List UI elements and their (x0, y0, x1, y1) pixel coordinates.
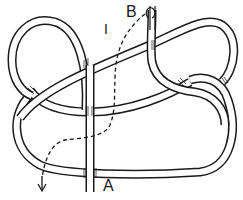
knot-diagram (0, 0, 243, 200)
label-step-marker: I (104, 22, 108, 36)
arrow-down-icon (38, 176, 46, 191)
label-end-b: B (126, 4, 137, 20)
label-end-a: A (103, 178, 114, 194)
